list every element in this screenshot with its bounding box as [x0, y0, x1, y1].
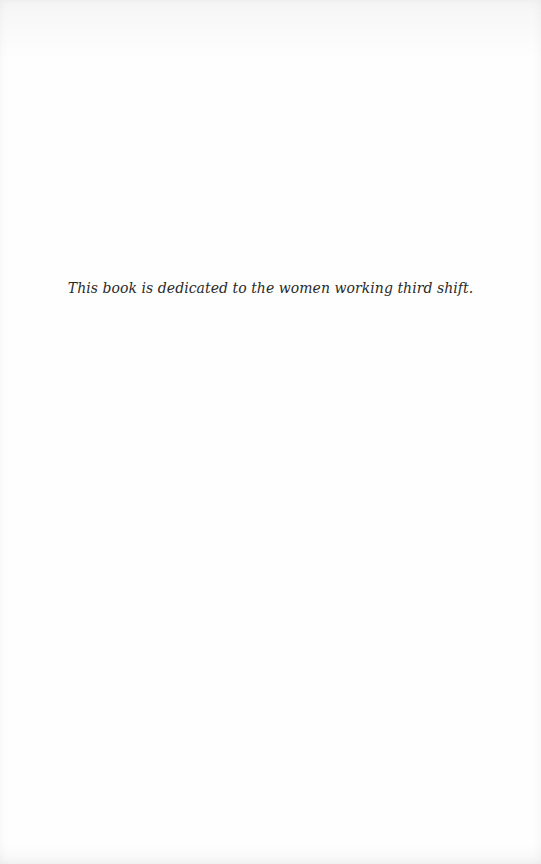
dedication-text: This book is dedicated to the women work…	[0, 278, 541, 298]
book-page: This book is dedicated to the women work…	[0, 0, 541, 864]
